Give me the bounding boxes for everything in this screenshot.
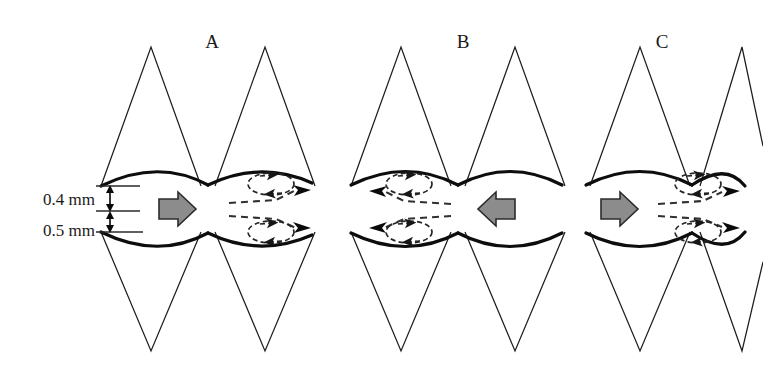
panel-b-label: B xyxy=(457,31,470,52)
vortex-lower-a-head-bottom xyxy=(270,241,282,242)
vortex-upper-c-head-top xyxy=(687,175,699,176)
wall-bottom-left xyxy=(351,233,458,247)
dim-head-chamber-up xyxy=(106,211,114,219)
panel-c-label: C xyxy=(656,31,669,52)
vortex-upper-c xyxy=(675,173,721,195)
panel-a-label: A xyxy=(205,31,219,52)
triangle-bottom-right xyxy=(700,232,763,351)
streamline-lower-a xyxy=(229,216,296,228)
triangle-top-right xyxy=(215,47,315,186)
vortex-lower-b-head-top xyxy=(398,223,410,224)
streamline-head-upper-a xyxy=(293,185,311,196)
triangle-top-left xyxy=(101,47,201,186)
flow-arrow-a xyxy=(159,192,196,226)
streamline-head-upper-b xyxy=(369,186,387,197)
wall-top-left xyxy=(101,172,208,186)
dim-label-chamber: 0.5 mm xyxy=(43,221,95,240)
vortex-lower-c xyxy=(675,221,721,243)
triangle-top-right xyxy=(465,47,565,186)
vortex-lower-a-head-top xyxy=(260,223,272,224)
vortex-lower-b xyxy=(386,221,432,243)
figure-canvas: A xyxy=(0,0,763,381)
triangle-top-right xyxy=(700,47,763,186)
vortex-upper-b-head-top xyxy=(398,175,410,176)
panel-b: B xyxy=(351,31,565,351)
streamline-head-upper-c xyxy=(722,186,740,197)
wall-top-right xyxy=(208,172,312,185)
streamline-head-lower-b xyxy=(369,222,387,233)
vortex-lower-a xyxy=(248,221,294,243)
vortex-lower-b-head-bottom xyxy=(408,241,420,242)
triangle-top-left xyxy=(590,47,690,186)
triangle-bottom-left xyxy=(590,232,690,351)
flow-arrow-b xyxy=(478,192,515,226)
panel-a: A xyxy=(101,31,315,351)
vortex-upper-a-head-bottom xyxy=(270,193,282,194)
vortex-upper-c-head-bottom xyxy=(697,193,709,194)
streamline-head-lower-a xyxy=(293,222,311,233)
streamline-head-lower-c xyxy=(722,222,740,233)
dimension-annotation: 0.4 mm 0.5 mm xyxy=(43,185,143,240)
wall-top-right xyxy=(458,172,562,186)
wall-top-left xyxy=(586,172,692,186)
triangle-bottom-right xyxy=(465,232,565,351)
vortex-upper-a-head-top xyxy=(260,175,272,176)
flow-arrow-c xyxy=(601,192,638,226)
triangle-top-left xyxy=(351,47,451,186)
triangle-bottom-left xyxy=(351,232,451,351)
wall-bottom-right xyxy=(208,233,312,246)
vortex-upper-b xyxy=(386,173,432,195)
vortex-upper-b-head-bottom xyxy=(408,193,420,194)
dim-label-throat: 0.4 mm xyxy=(43,190,95,209)
wall-bottom-right xyxy=(458,233,562,247)
vortex-lower-c-head-top xyxy=(687,223,699,224)
triangle-bottom-left xyxy=(101,232,201,351)
triangle-bottom-right xyxy=(215,232,315,351)
panel-c: C xyxy=(586,31,763,351)
wall-bottom-left xyxy=(101,232,208,246)
vortex-upper-a xyxy=(248,173,294,195)
schematic-svg: A xyxy=(0,0,763,381)
